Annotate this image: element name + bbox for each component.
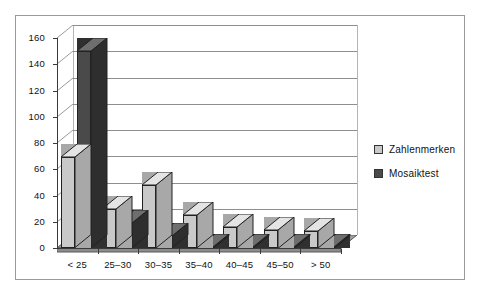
gridline xyxy=(73,25,357,26)
y-axis-label: 0 xyxy=(15,242,45,253)
gridline xyxy=(73,78,357,79)
y-axis-line xyxy=(57,38,58,248)
gridline xyxy=(73,104,357,105)
x-axis-category-label: 40–45 xyxy=(217,259,263,270)
x-axis-category-label: 45–50 xyxy=(257,259,303,270)
x-axis-tick xyxy=(219,249,220,254)
gridline-connector xyxy=(57,130,73,143)
x-axis-category-label: 30–35 xyxy=(135,259,181,270)
legend-item-0[interactable]: Zahlenmerken xyxy=(374,144,455,155)
x-axis-tick xyxy=(138,249,139,254)
legend-label: Mosaiktest xyxy=(389,168,439,179)
x-axis-tick xyxy=(260,249,261,254)
y-axis-label: 100 xyxy=(15,111,45,122)
gridline-connector xyxy=(57,78,73,91)
gridline-connector xyxy=(57,104,73,117)
x-axis-category-label: 25–30 xyxy=(95,259,141,270)
x-axis-category-label: < 25 xyxy=(54,259,100,270)
x-axis-line xyxy=(57,248,341,249)
x-axis-category-label: > 50 xyxy=(298,259,344,270)
x-axis-tick xyxy=(300,249,301,254)
gridline xyxy=(73,130,357,131)
y-axis-label: 80 xyxy=(15,137,45,148)
x-axis-tick xyxy=(341,249,342,254)
plot-back-right-edge xyxy=(357,25,358,235)
y-axis-label: 40 xyxy=(15,190,45,201)
bar-chart: 020406080100120140160< 2525–3030–3535–40… xyxy=(0,0,482,296)
bar-front-face xyxy=(61,157,75,248)
x-axis-category-label: 35–40 xyxy=(176,259,222,270)
bar-zahlenmerken-0 xyxy=(61,144,91,248)
y-axis-label: 20 xyxy=(15,216,45,227)
light-gray-swatch xyxy=(374,145,383,154)
legend-label: Zahlenmerken xyxy=(389,144,455,155)
gridline xyxy=(73,51,357,52)
legend-item-1[interactable]: Mosaiktest xyxy=(374,168,439,179)
y-axis-label: 160 xyxy=(15,32,45,43)
dark-gray-swatch xyxy=(374,169,383,178)
y-axis-label: 60 xyxy=(15,163,45,174)
y-axis-label: 140 xyxy=(15,58,45,69)
gridline xyxy=(73,183,357,184)
y-axis-label: 120 xyxy=(15,85,45,96)
gridline-connector xyxy=(57,51,73,64)
gridline xyxy=(73,156,357,157)
gridline-connector xyxy=(57,25,73,38)
x-axis-tick xyxy=(179,249,180,254)
x-axis-tick xyxy=(98,249,99,254)
